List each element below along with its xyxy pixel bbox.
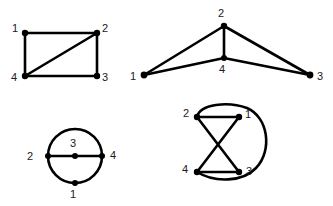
vertex-4-node bbox=[221, 55, 227, 61]
vertex-3-node bbox=[94, 73, 100, 79]
graph-figure-canvas: 1 2 3 4 2 1 3 4 2 4 3 1 bbox=[0, 0, 333, 206]
vertex-3-node bbox=[236, 169, 242, 175]
vertex-1-node bbox=[22, 30, 28, 36]
vertex-label-3: 3 bbox=[317, 70, 323, 82]
vertex-label-1: 1 bbox=[130, 70, 136, 82]
vertex-label-3: 3 bbox=[246, 165, 252, 177]
vertex-label-4: 4 bbox=[182, 163, 188, 175]
vertex-label-1: 1 bbox=[70, 188, 76, 200]
vertex-2-node bbox=[221, 23, 227, 29]
vertex-3-node bbox=[307, 72, 314, 79]
vertex-label-4: 4 bbox=[11, 71, 17, 83]
vertex-2-node bbox=[45, 153, 51, 159]
vertex-label-4: 4 bbox=[110, 149, 116, 161]
vertex-3-node bbox=[72, 153, 78, 159]
vertex-label-1: 1 bbox=[12, 22, 18, 34]
figure-background bbox=[0, 0, 333, 206]
vertex-2-node bbox=[94, 30, 100, 36]
vertex-label-1: 1 bbox=[245, 108, 251, 120]
vertex-4-node bbox=[99, 153, 105, 159]
vertex-label-2: 2 bbox=[218, 7, 224, 19]
vertex-label-3: 3 bbox=[70, 137, 76, 149]
vertex-label-3: 3 bbox=[102, 71, 108, 83]
vertex-1-node bbox=[236, 114, 242, 120]
vertex-1-node bbox=[141, 72, 148, 79]
vertex-label-2: 2 bbox=[183, 107, 189, 119]
vertex-4-node bbox=[22, 73, 28, 79]
vertex-label-4: 4 bbox=[219, 63, 225, 75]
vertex-4-node bbox=[194, 169, 200, 175]
vertex-2-node bbox=[194, 114, 200, 120]
vertex-label-2: 2 bbox=[102, 22, 108, 34]
vertex-label-2: 2 bbox=[27, 150, 33, 162]
vertex-1-node bbox=[72, 180, 78, 186]
